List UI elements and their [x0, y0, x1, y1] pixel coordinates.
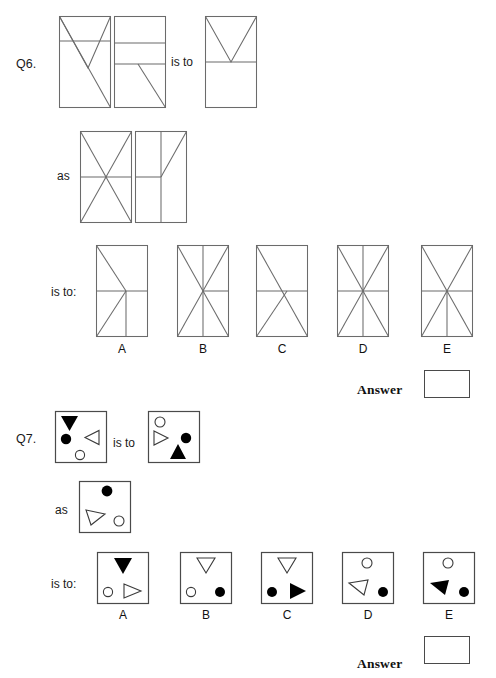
q7-premise-2a [79, 481, 131, 533]
question-label-q7: Q7. [16, 432, 36, 446]
q6-premise-2b [135, 131, 187, 223]
q7-option-label-a: A [93, 608, 153, 622]
q6-option-e[interactable] [421, 245, 473, 337]
q7-option-label-b: B [176, 608, 236, 622]
q7-option-e[interactable] [423, 552, 475, 604]
q6-option-c[interactable] [256, 245, 308, 337]
q7-premise-1a [55, 411, 107, 463]
q6-option-label-a: A [92, 342, 152, 356]
q7-option-label-e: E [419, 608, 479, 622]
q6-connector-as: as [57, 170, 70, 182]
q6-result-1 [205, 16, 257, 108]
q6-connector-is-to-colon: is to: [51, 286, 76, 298]
q7-premise-1b [148, 411, 200, 463]
q6-option-d[interactable] [337, 245, 389, 337]
q6-option-label-e: E [417, 342, 477, 356]
q6-connector-is-to: is to [171, 56, 193, 68]
q6-answer-label: Answer [357, 382, 402, 398]
q7-option-d[interactable] [342, 552, 394, 604]
q7-option-label-c: C [257, 608, 317, 622]
question-label-q6: Q6. [16, 57, 36, 71]
q7-connector-is-to: is to [113, 437, 135, 449]
q7-option-c[interactable] [261, 552, 313, 604]
q7-option-b[interactable] [180, 552, 232, 604]
q7-answer-label: Answer [357, 656, 402, 672]
q6-option-label-b: B [173, 342, 233, 356]
worksheet-page: Q6. is to as [0, 0, 496, 678]
q7-answer-box[interactable] [424, 636, 470, 664]
q6-premise-2a [80, 131, 132, 223]
q6-option-label-d: D [333, 342, 393, 356]
q6-premise-1a [59, 16, 111, 108]
q7-connector-is-to-colon: is to: [51, 578, 76, 590]
q6-premise-1b [114, 16, 166, 108]
q6-option-b[interactable] [177, 245, 229, 337]
q7-option-a[interactable] [97, 552, 149, 604]
q6-option-label-c: C [252, 342, 312, 356]
q7-option-label-d: D [338, 608, 398, 622]
q6-option-a[interactable] [96, 245, 148, 337]
q7-connector-as: as [55, 504, 68, 516]
q6-answer-box[interactable] [424, 370, 470, 398]
